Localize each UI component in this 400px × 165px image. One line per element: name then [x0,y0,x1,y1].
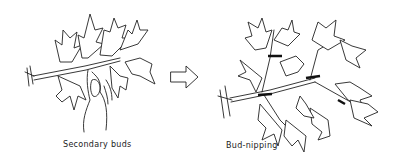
panel-secondary-buds: Secondary buds [0,0,200,165]
panel-bud-nipping: Bud-nipping [200,0,400,165]
caption-secondary-buds: Secondary buds [63,140,132,149]
caption-bud-nipping: Bud-nipping [226,141,278,150]
